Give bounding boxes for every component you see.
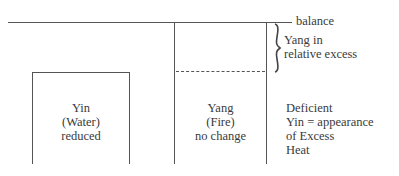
yin-label-line3: reduced [33, 129, 129, 143]
yin-level-dashed-line [176, 71, 265, 72]
yin-label-line2: (Water) [33, 115, 129, 129]
yang-label-line2: (Fire) [175, 115, 266, 129]
yin-label-line1: Yin [33, 101, 129, 115]
result-label: Deficient Yin = appearance of Excess Hea… [286, 101, 374, 157]
yin-box-right [129, 72, 130, 164]
excess-label-line2: relative excess [284, 47, 357, 61]
yang-label: Yang (Fire) no change [175, 101, 266, 143]
balance-line [8, 22, 292, 23]
excess-label: Yang in relative excess [284, 33, 357, 61]
result-label-line2: Yin = appearance [286, 115, 374, 129]
result-label-line4: Heat [286, 143, 374, 157]
yang-label-line1: Yang [175, 101, 266, 115]
yin-box-top [32, 72, 130, 73]
yang-box-right [266, 22, 267, 164]
yang-label-line3: no change [175, 129, 266, 143]
excess-label-line1: Yang in [284, 33, 357, 47]
yin-label: Yin (Water) reduced [33, 101, 129, 143]
result-label-line3: of Excess [286, 129, 374, 143]
balance-label: balance [296, 14, 334, 28]
curly-brace-icon [271, 23, 283, 73]
result-label-line1: Deficient [286, 101, 374, 115]
